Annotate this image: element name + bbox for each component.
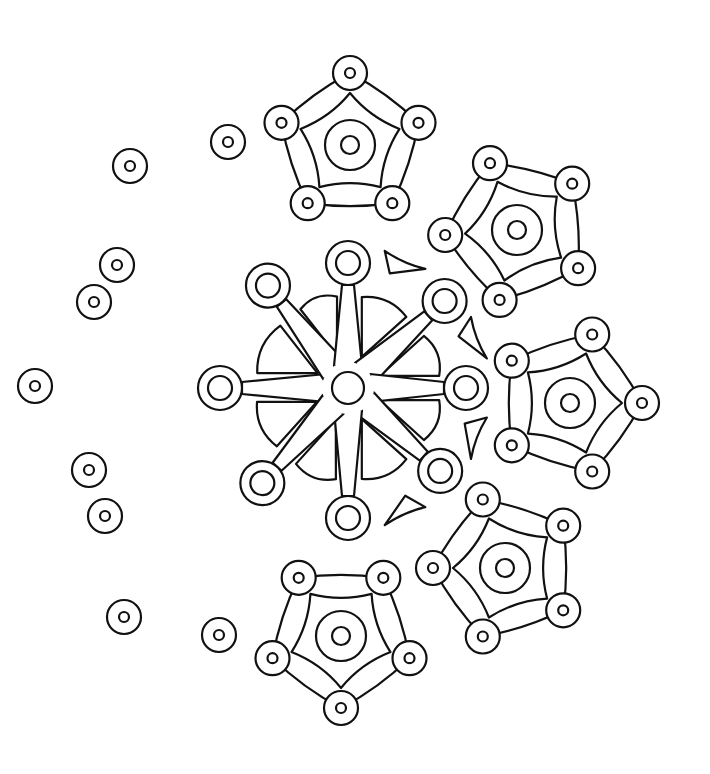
vertex-bead-icon xyxy=(393,641,427,675)
vertex-bead-icon xyxy=(375,186,409,220)
vertex-bead-icon xyxy=(466,620,500,654)
vertex-bead-icon xyxy=(495,344,529,378)
vertex-bead-icon xyxy=(625,386,659,420)
shard-icon xyxy=(385,251,426,274)
vertex-bead-icon xyxy=(366,561,400,595)
scatter-bead-icon xyxy=(107,600,141,634)
vertex-bead-icon xyxy=(495,428,529,462)
shard-icon xyxy=(385,496,426,525)
vertex-bead-icon xyxy=(333,56,367,90)
scatter-bead-icon xyxy=(211,125,245,159)
pentagon-right xyxy=(495,318,659,489)
scatter-bead-icon xyxy=(88,499,122,533)
vertex-bead-icon xyxy=(473,146,507,180)
mandala-illustration xyxy=(0,0,710,774)
vertex-bead-icon xyxy=(561,251,595,285)
vertex-bead-icon xyxy=(575,455,609,489)
snowflake-center xyxy=(198,241,488,540)
scatter-bead-icon xyxy=(18,369,52,403)
pentagon-top xyxy=(265,56,436,220)
pentagon-lower-right xyxy=(416,483,580,654)
vertex-bead-icon xyxy=(575,318,609,352)
vertex-bead-icon xyxy=(402,106,436,140)
vertex-bead-icon xyxy=(324,691,358,725)
vertex-bead-icon xyxy=(256,641,290,675)
scatter-bead-icon xyxy=(77,285,111,319)
vertex-bead-icon xyxy=(265,106,299,140)
vertex-bead-icon xyxy=(483,283,517,317)
vertex-bead-icon xyxy=(428,218,462,252)
shard-icon xyxy=(465,418,487,459)
hub-icon xyxy=(332,372,364,404)
coloring-page xyxy=(0,0,710,774)
vertex-bead-icon xyxy=(546,593,580,627)
vertex-bead-icon xyxy=(466,483,500,517)
pentagon-bottom xyxy=(256,561,427,725)
shard-icon xyxy=(459,317,487,358)
scatter-bead-icon xyxy=(113,149,147,183)
scatter-bead-icon xyxy=(100,248,134,282)
scatter-bead-icon xyxy=(202,618,236,652)
vertex-bead-icon xyxy=(282,561,316,595)
vertex-bead-icon xyxy=(555,167,589,201)
vertex-bead-icon xyxy=(416,551,450,585)
vertex-bead-icon xyxy=(291,186,325,220)
vertex-bead-icon xyxy=(546,509,580,543)
scatter-bead-icon xyxy=(72,453,106,487)
